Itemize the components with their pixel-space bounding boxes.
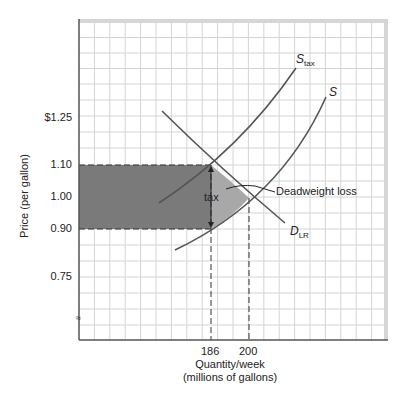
x-axis-title: Quantity/week (160, 358, 300, 371)
tax-revenue-area (79, 165, 211, 229)
x-axis-label: Quantity/week (millions of gallons) (160, 358, 300, 384)
y-tick-110: 1.10 (32, 158, 72, 170)
y-tick-100: 1.00 (32, 190, 72, 202)
deadweight-loss-label: Deadweight loss (276, 185, 357, 197)
demand-label: DLR (290, 224, 309, 240)
axis-break-icon: ≈ (76, 313, 81, 323)
tax-label: tax (204, 191, 219, 203)
y-tick-125: $1.25 (32, 111, 72, 123)
right-shade (384, 19, 388, 340)
supply-label: S (329, 85, 337, 99)
x-tick-200: 200 (239, 345, 257, 357)
supply-tax-label: Stax (296, 52, 315, 68)
y-tick-075: 0.75 (32, 270, 72, 282)
y-tick-090: 0.90 (32, 222, 72, 234)
x-tick-186: 186 (201, 345, 219, 357)
top-shade (79, 19, 388, 23)
y-axis-label: Price (per gallon) (18, 146, 30, 246)
x-axis-subtitle: (millions of gallons) (160, 371, 300, 384)
